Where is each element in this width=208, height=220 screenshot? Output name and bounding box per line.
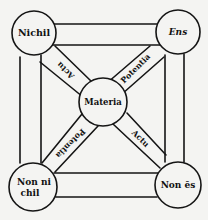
node-nichil: Nichil bbox=[12, 11, 56, 55]
node-non-nichil-label-line2: chil bbox=[21, 188, 40, 198]
node-ens-label: Ens bbox=[168, 27, 187, 37]
node-materia-label: Materia bbox=[84, 97, 122, 107]
top-band bbox=[50, 24, 160, 45]
left-band bbox=[20, 55, 41, 163]
node-nichil-label: Nichil bbox=[18, 27, 51, 38]
bottom-band bbox=[54, 173, 158, 197]
node-materia: Materia bbox=[79, 78, 127, 126]
band-label-lower-right: Actu bbox=[129, 127, 151, 149]
node-ens: Ens bbox=[156, 10, 200, 54]
node-non-ens: Non ēs bbox=[155, 162, 201, 208]
right-band bbox=[165, 54, 184, 162]
node-non-ens-label: Non ēs bbox=[161, 180, 196, 190]
node-non-nichil-label-line1: Non ni bbox=[17, 177, 51, 187]
node-non-nichil: Non ni chil bbox=[9, 163, 57, 211]
diagram-canvas: Nichil Ens Materia Non ni chil Non ēs Ac… bbox=[0, 0, 208, 220]
